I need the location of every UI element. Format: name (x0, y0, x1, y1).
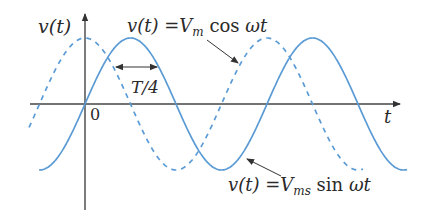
cos-arg: ωt (245, 15, 267, 36)
cos-coef: V (179, 15, 192, 36)
origin-label: 0 (90, 107, 100, 123)
sin-eq: = (265, 174, 280, 195)
cos-lhs: v(t) (127, 15, 158, 36)
sin-lhs: v(t) (228, 174, 259, 195)
sin-arg: ωt (349, 174, 371, 195)
cos-fn: cos (209, 15, 239, 36)
sine-equation: v(t) =Vms sin ωt (228, 176, 371, 194)
y-axis-label: v(t) (38, 17, 71, 36)
cos-eq: = (164, 15, 179, 36)
sin-fn: sin (317, 174, 344, 195)
cosine-equation: v(t) =Vm cos ωt (127, 17, 267, 35)
x-axis-label: t (384, 108, 391, 126)
phase-shift-label: T/4 (131, 79, 159, 96)
cosine-pointer-arrow (207, 40, 238, 63)
cos-sub: m (192, 25, 203, 39)
sin-sub: ms (293, 184, 311, 198)
sin-coef: V (280, 174, 293, 195)
